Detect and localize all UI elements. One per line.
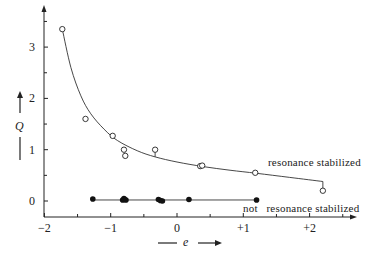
open-circle-point <box>152 147 157 152</box>
annotation-not-resonance-stabilized: not resonance stabilized <box>243 202 360 214</box>
open-circle-point <box>320 188 325 193</box>
y-axis-variable: Q <box>15 119 24 133</box>
filled-circle-point <box>160 198 166 204</box>
x-tick-label: 0 <box>174 221 180 235</box>
x-tick-label: +2 <box>303 221 316 235</box>
y-tick-label: 2 <box>29 91 35 105</box>
x-axis-label: e <box>158 235 222 249</box>
axes <box>42 5 358 220</box>
x-tick-label: +1 <box>237 221 250 235</box>
open-circle-point <box>253 170 258 175</box>
filled-circle-point <box>90 196 96 202</box>
y-axis-label: Q <box>15 91 24 160</box>
open-circle-point <box>121 147 126 152</box>
filled-circle-point <box>186 197 192 203</box>
open-circle-point <box>199 163 204 168</box>
open-circle-point <box>83 116 88 121</box>
y-tick-label: 1 <box>29 143 35 157</box>
open-circle-point <box>123 153 128 158</box>
points-resonance-stabilized <box>60 26 326 193</box>
open-circle-point <box>60 26 65 31</box>
open-circle-point <box>110 133 115 138</box>
y-axis-arrow-icon <box>42 5 47 12</box>
x-tick-label: −1 <box>104 221 117 235</box>
filled-circle-point <box>123 197 129 203</box>
arrow-right-icon <box>215 240 222 246</box>
y-tick-label: 3 <box>29 40 35 54</box>
q-e-scatter-chart: 0123−2−10+1+2 resonance stabilized not r… <box>0 0 369 258</box>
arrow-up-icon <box>17 91 23 98</box>
x-axis-variable: e <box>183 235 189 249</box>
y-tick-label: 0 <box>29 194 35 208</box>
x-tick-label: −2 <box>38 221 51 235</box>
x-axis-arrow-icon <box>350 215 357 220</box>
annotation-resonance-stabilized: resonance stabilized <box>268 156 361 168</box>
